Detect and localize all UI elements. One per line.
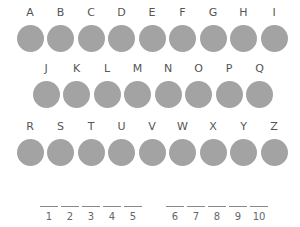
letter-button[interactable]: [94, 81, 121, 108]
letter-tile-b[interactable]: B: [46, 7, 76, 52]
letter-button[interactable]: [246, 81, 273, 108]
letter-tile-m[interactable]: M: [123, 63, 153, 108]
letter-label: D: [107, 7, 137, 19]
blank-line: [187, 206, 205, 207]
letter-tile-n[interactable]: N: [153, 63, 183, 108]
letter-button[interactable]: [139, 25, 166, 52]
blank-line: [229, 206, 247, 207]
letter-tile-d[interactable]: D: [107, 7, 137, 52]
letter-label: H: [229, 7, 259, 19]
letter-button[interactable]: [124, 81, 151, 108]
letter-button[interactable]: [47, 139, 74, 166]
blank-line: [61, 206, 79, 207]
letter-label: N: [153, 63, 183, 75]
blank-line: [208, 206, 226, 207]
letter-button[interactable]: [169, 25, 196, 52]
letter-button[interactable]: [230, 139, 257, 166]
blank-line: [166, 206, 184, 207]
letter-tile-w[interactable]: W: [168, 121, 198, 166]
letter-button[interactable]: [47, 25, 74, 52]
letter-tile-s[interactable]: S: [46, 121, 76, 166]
answer-blank-4[interactable]: 4: [103, 206, 121, 222]
letter-button[interactable]: [17, 25, 44, 52]
blank-number: 4: [103, 211, 121, 222]
letter-button[interactable]: [216, 81, 243, 108]
letter-button[interactable]: [63, 81, 90, 108]
blank-number: 1: [40, 211, 58, 222]
letter-tile-l[interactable]: L: [92, 63, 122, 108]
letter-button[interactable]: [261, 139, 288, 166]
blank-line: [40, 206, 58, 207]
letter-button[interactable]: [108, 25, 135, 52]
blank-number: 2: [61, 211, 79, 222]
letter-tile-e[interactable]: E: [137, 7, 167, 52]
letter-label: S: [46, 121, 76, 133]
letter-label: I: [259, 7, 289, 19]
letter-label: M: [123, 63, 153, 75]
letter-tile-j[interactable]: J: [31, 63, 61, 108]
blank-number: 5: [124, 211, 142, 222]
letter-label: O: [184, 63, 214, 75]
letter-tile-i[interactable]: I: [259, 7, 289, 52]
letter-label: A: [15, 7, 45, 19]
letter-label: G: [198, 7, 228, 19]
blank-line: [82, 206, 100, 207]
letter-button[interactable]: [108, 139, 135, 166]
blank-line: [124, 206, 142, 207]
letter-tile-k[interactable]: K: [62, 63, 92, 108]
letter-button[interactable]: [200, 139, 227, 166]
blank-number: 9: [229, 211, 247, 222]
letter-button[interactable]: [139, 139, 166, 166]
letter-tile-z[interactable]: Z: [259, 121, 289, 166]
answer-blank-8[interactable]: 8: [208, 206, 226, 222]
letter-tile-g[interactable]: G: [198, 7, 228, 52]
letter-tile-q[interactable]: Q: [245, 63, 275, 108]
letter-label: V: [137, 121, 167, 133]
answer-blank-1[interactable]: 1: [40, 206, 58, 222]
letter-button[interactable]: [78, 25, 105, 52]
letter-label: E: [137, 7, 167, 19]
letter-button[interactable]: [169, 139, 196, 166]
answer-blank-3[interactable]: 3: [82, 206, 100, 222]
blank-line: [250, 206, 268, 207]
letter-tile-x[interactable]: X: [198, 121, 228, 166]
letter-tile-y[interactable]: Y: [229, 121, 259, 166]
letter-label: K: [62, 63, 92, 75]
letter-label: F: [168, 7, 198, 19]
letter-tile-u[interactable]: U: [107, 121, 137, 166]
letter-tile-a[interactable]: A: [15, 7, 45, 52]
letter-tile-c[interactable]: C: [76, 7, 106, 52]
answer-blank-2[interactable]: 2: [61, 206, 79, 222]
letter-label: T: [76, 121, 106, 133]
letter-button[interactable]: [230, 25, 257, 52]
letter-label: Z: [259, 121, 289, 133]
answer-blank-9[interactable]: 9: [229, 206, 247, 222]
blank-number: 3: [82, 211, 100, 222]
letter-button[interactable]: [33, 81, 60, 108]
letter-button[interactable]: [17, 139, 44, 166]
blank-number: 8: [208, 211, 226, 222]
letter-tile-f[interactable]: F: [168, 7, 198, 52]
letter-button[interactable]: [185, 81, 212, 108]
blank-number: 7: [187, 211, 205, 222]
letter-button[interactable]: [261, 25, 288, 52]
blank-number: 10: [250, 211, 268, 222]
letter-tile-r[interactable]: R: [15, 121, 45, 166]
letter-tile-p[interactable]: P: [214, 63, 244, 108]
answer-blank-6[interactable]: 6: [166, 206, 184, 222]
answer-blank-10[interactable]: 10: [250, 206, 268, 222]
letter-tile-h[interactable]: H: [229, 7, 259, 52]
letter-tile-o[interactable]: O: [184, 63, 214, 108]
letter-tile-v[interactable]: V: [137, 121, 167, 166]
letter-label: U: [107, 121, 137, 133]
letter-button[interactable]: [78, 139, 105, 166]
letter-button[interactable]: [155, 81, 182, 108]
letter-label: B: [46, 7, 76, 19]
letter-label: J: [31, 63, 61, 75]
letter-button[interactable]: [200, 25, 227, 52]
letter-tile-t[interactable]: T: [76, 121, 106, 166]
answer-blank-7[interactable]: 7: [187, 206, 205, 222]
answer-blank-5[interactable]: 5: [124, 206, 142, 222]
letter-label: C: [76, 7, 106, 19]
blank-number: 6: [166, 211, 184, 222]
